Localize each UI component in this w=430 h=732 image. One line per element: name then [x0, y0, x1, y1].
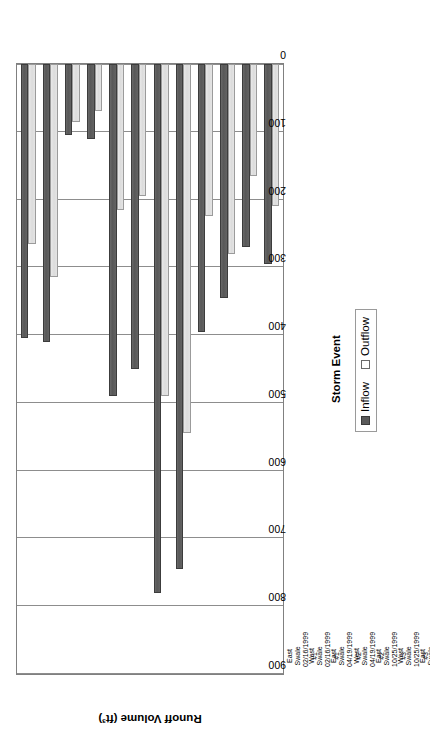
category-label-swale: West Swale — [308, 645, 324, 667]
category-label-swale: East Swale — [419, 645, 430, 667]
grid-line — [17, 537, 283, 538]
value-tick-label: 900 — [268, 659, 286, 671]
bar-inflow — [242, 64, 250, 247]
value-tick-label: 300 — [268, 252, 286, 264]
bar-inflow — [264, 64, 272, 264]
bar-inflow — [131, 64, 139, 369]
grid-line — [17, 605, 283, 606]
bar-outflow — [117, 64, 125, 210]
bar-inflow — [65, 64, 73, 135]
rotated-figure: Inflow Outflow Runoff Volume (ft³) 01002… — [0, 0, 430, 732]
bar-inflow — [220, 64, 228, 298]
value-tick-label: 700 — [268, 523, 286, 535]
legend-label-inflow: Inflow — [360, 382, 372, 412]
bar-outflow — [72, 64, 80, 122]
bar-outflow — [50, 64, 58, 278]
bar-outflow — [228, 64, 236, 254]
grid-line — [17, 402, 283, 403]
grid-line — [17, 673, 283, 674]
category-label-swale: East Swale — [286, 645, 302, 667]
bar-outflow — [205, 64, 213, 217]
bar-outflow — [183, 64, 191, 433]
bar-inflow — [87, 64, 95, 139]
value-tick-label: 800 — [268, 591, 286, 603]
plot-area — [16, 63, 284, 675]
value-tick-label: 0 — [280, 49, 286, 61]
bar-inflow — [109, 64, 117, 396]
grid-line — [17, 470, 283, 471]
value-tick-label: 200 — [268, 185, 286, 197]
value-tick-label: 600 — [268, 456, 286, 468]
value-tick-label: 100 — [268, 117, 286, 129]
chart-legend: Inflow Outflow — [355, 309, 377, 432]
grid-line — [17, 334, 283, 335]
category-label-swale: East Swale — [375, 645, 391, 667]
bar-outflow — [250, 64, 258, 176]
bar-inflow — [198, 64, 206, 332]
legend-swatch-inflow-icon — [361, 416, 370, 425]
chart-page: Inflow Outflow Runoff Volume (ft³) 01002… — [0, 0, 430, 732]
bar-outflow — [139, 64, 147, 196]
value-axis-title: Runoff Volume (ft³) — [16, 712, 284, 726]
bar-outflow — [28, 64, 36, 244]
category-axis-labels: East Swale02/16/1999#1West Swale02/16/19… — [286, 63, 326, 675]
category-label-stack: East Swale02/22/2000#4 — [419, 645, 430, 667]
legend-swatch-outflow-icon — [361, 360, 370, 369]
value-tick-label: 400 — [268, 320, 286, 332]
bar-outflow — [95, 64, 103, 111]
category-axis-title: Storm Event — [330, 63, 342, 675]
bar-inflow — [176, 64, 184, 569]
bar-inflow — [43, 64, 51, 342]
legend-item-outflow: Outflow — [360, 317, 372, 369]
bar-inflow — [21, 64, 29, 339]
category-label-swale: West Swale — [353, 645, 369, 667]
category-label-swale: West Swale — [397, 645, 413, 667]
value-tick-label: 500 — [268, 388, 286, 400]
bar-outflow — [161, 64, 169, 396]
legend-item-inflow: Inflow — [360, 382, 372, 425]
bar-inflow — [154, 64, 162, 593]
legend-label-outflow: Outflow — [360, 317, 372, 356]
